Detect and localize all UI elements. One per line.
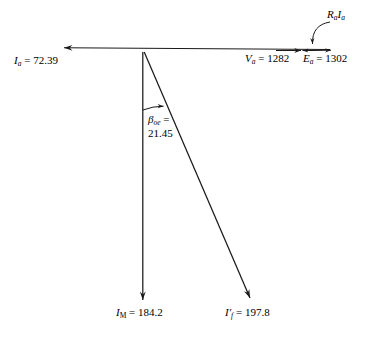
phasor-diagram-canvas (0, 0, 367, 338)
va-label: Va = 1282 (245, 52, 289, 66)
beta-angle-label: βoe = 21.45 (148, 113, 173, 140)
if-value: 197.8 (245, 306, 270, 318)
ia-phasor-line (64, 48, 330, 50)
beta-angle-arc (143, 106, 164, 110)
ea-label: Ea = 1302 (303, 52, 347, 66)
raia-label: RaIa (327, 8, 345, 22)
if-label: I′f = 197.8 (225, 306, 270, 320)
raia-leader-arrow (312, 22, 330, 44)
beta-angle-value: 21.45 (148, 127, 173, 139)
if-phasor-line (144, 52, 250, 298)
ia-value: 72.39 (33, 54, 58, 66)
ea-value: 1302 (325, 52, 347, 64)
im-label: IM = 184.2 (116, 306, 163, 320)
phasor-diagram: Ia = 72.39 Va = 1282 Ea = 1302 RaIa βoe … (0, 0, 367, 338)
im-value: 184.2 (138, 306, 163, 318)
ia-label: Ia = 72.39 (14, 54, 58, 68)
va-value: 1282 (267, 52, 289, 64)
